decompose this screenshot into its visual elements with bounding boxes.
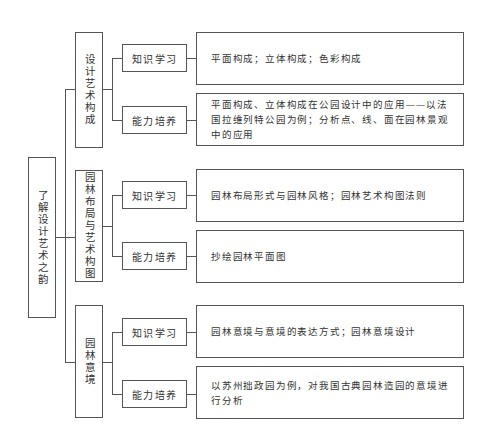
connector — [112, 58, 122, 59]
connector — [103, 226, 112, 227]
category-knowledge: 知识学习 — [122, 318, 187, 346]
connector — [65, 362, 75, 363]
connector — [65, 89, 75, 90]
content-box: 抄绘园林平面图 — [196, 230, 464, 283]
branch-label: 园林布局与艺术构图 — [84, 172, 95, 280]
connector — [187, 256, 196, 257]
connector — [103, 89, 112, 90]
content-box: 园林布局形式与园林风格；园林艺术构图法则 — [196, 169, 464, 222]
connector — [187, 58, 196, 59]
connector — [112, 256, 122, 257]
category-ability: 能力培养 — [122, 242, 187, 270]
connector — [112, 195, 113, 256]
content-text: 园林意境与意境的表达方式；园林意境设计 — [211, 324, 416, 339]
branch-garden-layout: 园林布局与艺术构图 — [75, 170, 103, 282]
content-text: 平面构成；立体构成；色彩构成 — [211, 51, 362, 66]
content-text: 园林布局形式与园林风格；园林艺术构图法则 — [211, 188, 427, 203]
branch-label: 设计艺术构成 — [84, 54, 95, 126]
connector — [112, 120, 122, 121]
category-ability: 能力培养 — [122, 380, 187, 408]
category-label: 能力培养 — [132, 113, 178, 128]
connector — [112, 195, 122, 196]
content-text: 抄绘园林平面图 — [211, 249, 287, 264]
connector — [65, 237, 75, 238]
content-text: 以苏州拙政园为例，对我国古典园林造园的意境进行分析 — [211, 378, 449, 408]
content-box: 园林意境与意境的表达方式；园林意境设计 — [196, 305, 464, 358]
content-box: 平面构成；立体构成；色彩构成 — [196, 32, 464, 85]
connector — [112, 332, 122, 333]
connector — [112, 58, 113, 120]
category-label: 知识学习 — [132, 188, 178, 203]
connector — [56, 237, 65, 238]
branch-label: 园林意境 — [84, 338, 95, 386]
content-box: 平面构成、立体构成在公园设计中的应用——以法国拉维列特公园为例；分析点、线、面在… — [196, 93, 464, 146]
root-label: 了解设计艺术之韵 — [37, 190, 48, 286]
content-text: 平面构成、立体构成在公园设计中的应用——以法国拉维列特公园为例；分析点、线、面在… — [211, 97, 449, 142]
category-knowledge: 知识学习 — [122, 44, 187, 72]
connector — [187, 120, 196, 121]
trunk-line — [65, 89, 66, 362]
branch-design-art: 设计艺术构成 — [75, 32, 103, 148]
category-label: 能力培养 — [132, 387, 178, 402]
category-knowledge: 知识学习 — [122, 181, 187, 209]
connector — [187, 332, 196, 333]
category-label: 知识学习 — [132, 325, 178, 340]
category-label: 能力培养 — [132, 249, 178, 264]
category-label: 知识学习 — [132, 51, 178, 66]
connector — [187, 394, 196, 395]
branch-garden-mood: 园林意境 — [75, 305, 103, 418]
root-node: 了解设计艺术之韵 — [28, 157, 56, 318]
content-box: 以苏州拙政园为例，对我国古典园林造园的意境进行分析 — [196, 366, 464, 419]
connector — [103, 362, 112, 363]
category-ability: 能力培养 — [122, 106, 187, 134]
connector — [112, 394, 122, 395]
connector — [112, 332, 113, 394]
connector — [187, 195, 196, 196]
